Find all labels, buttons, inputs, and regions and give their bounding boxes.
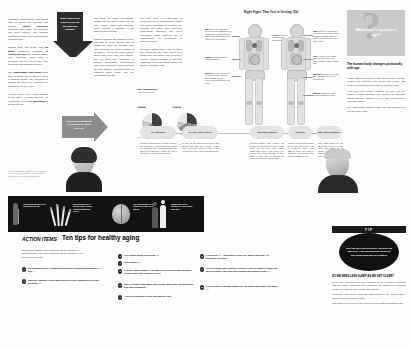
cane-stick — [18, 209, 19, 224]
timeline-pill-0[interactable]: The Aging Brain — [140, 126, 176, 139]
portrait-photo-woman — [64, 148, 104, 192]
tip-item-2[interactable]: 2 Exercise regularly (check with a docto… — [22, 279, 100, 285]
tip-item-9[interactable]: 9 Keep personal and financial records in… — [200, 267, 278, 273]
callout-hearing: Hearing It's difficult hearing higher fr… — [272, 34, 294, 41]
tip-ref: (2). — [39, 282, 42, 284]
leg-shape — [255, 78, 263, 125]
tip-circle-text: Don't nap more than 30 minutes, and don'… — [339, 233, 399, 271]
timeline-pill-3[interactable]: Aging Skin — [288, 126, 312, 139]
col2-para-2: Chronic illnesses like diabetes, kidney … — [94, 38, 134, 78]
callout-heart: Heart A heart at rest pumps about the sa… — [313, 55, 339, 65]
timeline-body-0: Though the brain shrinks in weight and s… — [140, 142, 177, 155]
tip-item-3[interactable]: 3 Get regular health check-ups (3). — [118, 254, 196, 257]
tip-text: Practice safety habits — [124, 269, 147, 271]
charts-subtitle: Average body weight — [137, 91, 203, 93]
timeline-body-2: Metering support rates. Smaller and dens… — [250, 142, 284, 160]
timeline-body-1: By age 70, the heart's resting output ha… — [182, 142, 219, 152]
organs-group — [288, 40, 304, 68]
cigarette — [65, 209, 72, 226]
tip-item-1[interactable]: 1 Eat a balanced diet, including 5 helpi… — [22, 267, 100, 273]
right-para-3: Still, most adults remain healthy and in… — [347, 106, 405, 113]
tip-bullet: 3 — [118, 254, 122, 258]
heart-icon — [252, 43, 257, 48]
tip-item-5[interactable]: 5 Practice safety habits (5) at home to … — [118, 269, 196, 275]
timeline-pill-4[interactable]: Bone, Muscle & Balance — [316, 126, 342, 139]
left-para-3: The Framingham Heart Study found that ex… — [8, 71, 48, 88]
tip-item-6[interactable]: 6 Stay in contact with family and friend… — [118, 283, 196, 289]
brain-icon — [112, 204, 130, 224]
callout-kidneys: Kidneys become less efficient at removin… — [205, 72, 231, 84]
silhouette-man — [160, 205, 166, 228]
tip-text: If you drink — [206, 254, 218, 256]
tip-bullet: 10 — [200, 285, 204, 289]
left-text-column-2: The study of aging (gerontology) shows t… — [94, 17, 134, 82]
leg-shape — [297, 78, 305, 125]
left-para-1: Laboratory studies show that cutting bac… — [8, 18, 48, 41]
chart-year-label: AGE 25 — [137, 106, 146, 108]
tip-bullet: 4 — [118, 261, 122, 265]
timeline-pill-1[interactable]: The Older Heart & Arteries — [182, 126, 218, 139]
tip-bullet: 7 — [118, 295, 122, 299]
tip-ref: (1). — [33, 270, 36, 272]
arm-shape — [281, 38, 287, 70]
cigarette — [50, 207, 57, 226]
knee-joint — [246, 101, 252, 105]
question-arrow-right: What are our prospects for slowing the a… — [62, 112, 108, 142]
right-panel-heading: The human body changes profoundly with a… — [347, 62, 405, 70]
tip-bullet: 9 — [200, 267, 204, 271]
knee-joint — [256, 101, 262, 105]
timeline-section: The Aging Brain The Older Heart & Arteri… — [138, 126, 343, 184]
knee-joint — [288, 101, 294, 105]
arrow-tip — [53, 41, 93, 57]
question-arrow-down: What causes our body to lose its strengt… — [53, 12, 87, 58]
action-items-intro: No known substance can extend life, but … — [22, 249, 84, 259]
tip-text: Avoid overexposure to the sun and the co… — [124, 295, 171, 297]
fact-text: Women will live on average 5.4 years lon… — [171, 203, 194, 210]
right-para-1: Muscle mass decreases as body fat increa… — [347, 77, 405, 87]
tip-text: Eat a balanced diet, including 5 helping… — [28, 267, 99, 272]
tip-ref: (8). — [206, 288, 209, 290]
arrow-right-text: What are our prospects for slowing the a… — [65, 120, 93, 130]
right-para-2: Heart and lung capacity diminish with ag… — [347, 90, 405, 103]
tip-ref: (3). — [156, 254, 159, 256]
tip-text: Stay in contact with family and friends.… — [124, 283, 194, 288]
arrow-tip — [94, 112, 114, 142]
anatomy-panel: Eight Signs That You're Getting Old — [205, 10, 337, 128]
hair-shape — [71, 147, 97, 163]
knee-joint — [298, 101, 304, 105]
sleep-tip-panel: TIP Don't nap more than 30 minutes, and … — [332, 226, 406, 344]
statistics-band: Arthritis affects 50% of all Americans o… — [8, 196, 204, 232]
callout-body-fat: Body fat increases until middle age, pla… — [313, 73, 339, 80]
tip-ref: (4). — [138, 261, 141, 263]
timeline-pill-2[interactable]: Vital Organ Functions — [250, 126, 284, 139]
callout-muscles: Muscles weaken with age unless exercised… — [313, 92, 339, 97]
leg-shape — [287, 78, 295, 125]
silhouette-woman — [152, 207, 158, 228]
tip-item-10[interactable]: 10 Keep a positive attitude toward life.… — [200, 285, 278, 291]
arm-shape — [239, 38, 245, 70]
leg-shape — [245, 78, 253, 125]
tip-text: Get regular health check-ups — [124, 254, 155, 256]
shoulders-shape — [66, 172, 102, 192]
col2-para-1: The study of aging (gerontology) shows t… — [94, 17, 134, 34]
arm-shape — [305, 38, 311, 70]
tip-banner: TIP — [332, 226, 406, 233]
tip-heading: DO WE NEED LESS SLEEP AS WE GET OLDER? — [332, 275, 406, 278]
action-items-label: ACTION ITEMS — [22, 236, 57, 242]
shoulders-shape — [318, 175, 358, 193]
lung-icon — [298, 40, 304, 52]
tip-body: No. It's likely that at they get older, … — [332, 281, 406, 308]
organs-group — [246, 40, 262, 68]
cigarette — [56, 204, 60, 226]
tip-item-4[interactable]: 4 Don't smoke (4). — [118, 261, 196, 264]
tip-item-8[interactable]: 8 If you drink (6) , moderation is the k… — [200, 254, 278, 260]
col3-para-2: Excessive factors and a loss of leisure … — [140, 48, 182, 68]
tip-para-2: In addition, older people often take nap… — [332, 293, 406, 300]
tip-para-3: Most adults need seven to nine hours of … — [332, 302, 406, 305]
action-items-title: Ten tips for healthy aging — [62, 234, 139, 241]
tip-bullet: 6 — [118, 283, 122, 287]
tip-item-7[interactable]: 7 Avoid overexposure to the sun and the … — [118, 295, 196, 298]
callout-skin: Skin loses cells, less elastic; the unde… — [205, 28, 231, 40]
question-badge-text: What can I expect as I age? — [353, 27, 399, 37]
tip-text: Don't smoke — [124, 261, 137, 263]
